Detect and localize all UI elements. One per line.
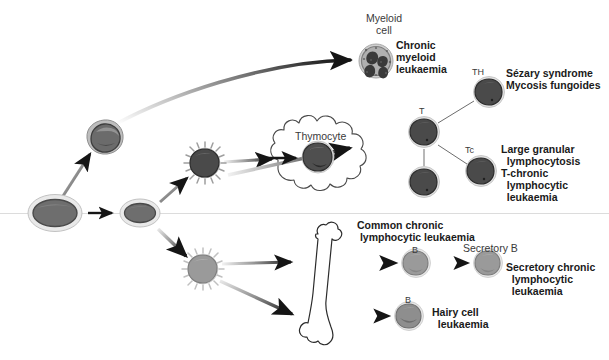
label-t-cytotoxic: Tc bbox=[465, 145, 474, 155]
label-t-helper: TH bbox=[472, 67, 484, 77]
b-precursor-cell bbox=[182, 248, 224, 290]
stem-cell bbox=[28, 195, 82, 232]
arrow-stem-to-lymphoid bbox=[160, 178, 187, 202]
arrow-stem-to-b-lineage bbox=[158, 229, 186, 256]
label-thymocyte: Thymocyte bbox=[295, 131, 346, 143]
b-cell bbox=[395, 302, 424, 331]
myeloid-cell bbox=[359, 44, 393, 78]
arrow-b-to-bone-upper bbox=[222, 262, 291, 264]
arrow-lymphoid-to-thymus bbox=[224, 159, 272, 162]
connector-t-to-th bbox=[438, 101, 474, 123]
thymocyte-cell bbox=[302, 141, 334, 173]
label-large-granular: Large granular lymphocytosis T-chronic l… bbox=[501, 144, 607, 204]
lymphoid-precursor-cell bbox=[184, 142, 226, 184]
arrow-b-to-bone-lower bbox=[220, 281, 292, 314]
myeloid-precursor-cell bbox=[87, 120, 123, 154]
label-hairy-cell: Hairy cell leukaemia bbox=[432, 307, 516, 331]
figure-canvas: Myeloid cell Chronic myeloid leukaemia T… bbox=[0, 0, 609, 360]
t-cell bbox=[409, 167, 440, 198]
label-chronic-myeloid-leukaemia: Chronic myeloid leukaemia bbox=[396, 40, 482, 76]
label-secretory-chronic: Secretory chronic lymphocytic leukaemia bbox=[506, 262, 608, 298]
arrow-myeloid-curve bbox=[116, 60, 350, 124]
t-cytotoxic-cell bbox=[466, 156, 497, 187]
label-b-cell-top: B bbox=[412, 245, 418, 255]
bone-outline bbox=[299, 222, 341, 345]
label-t-cell: T bbox=[419, 106, 425, 116]
label-b-cell-bottom: B bbox=[405, 295, 411, 305]
t-helper-cell bbox=[474, 77, 505, 108]
label-secretory-b: Secretory B bbox=[463, 243, 518, 255]
connector-t-to-tc bbox=[438, 145, 467, 164]
stem-cell bbox=[120, 199, 160, 227]
arrow-stem-to-myeloid-lineage bbox=[63, 154, 90, 196]
label-common-chronic: Common chronic lymphocytic leukaemia bbox=[357, 220, 483, 244]
label-sezary-mycosis: Sézary syndrome Mycosis fungoides bbox=[506, 68, 609, 92]
t-cell bbox=[409, 117, 440, 148]
label-myeloid-cell: Myeloid cell bbox=[356, 13, 412, 37]
